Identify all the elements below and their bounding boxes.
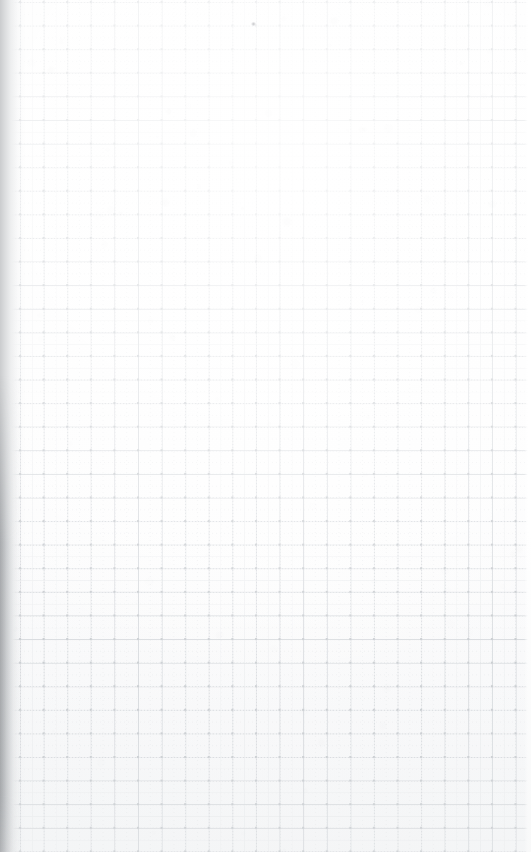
scanned-grid-paper-page	[0, 0, 531, 852]
grid-intersection-dots	[0, 0, 531, 852]
